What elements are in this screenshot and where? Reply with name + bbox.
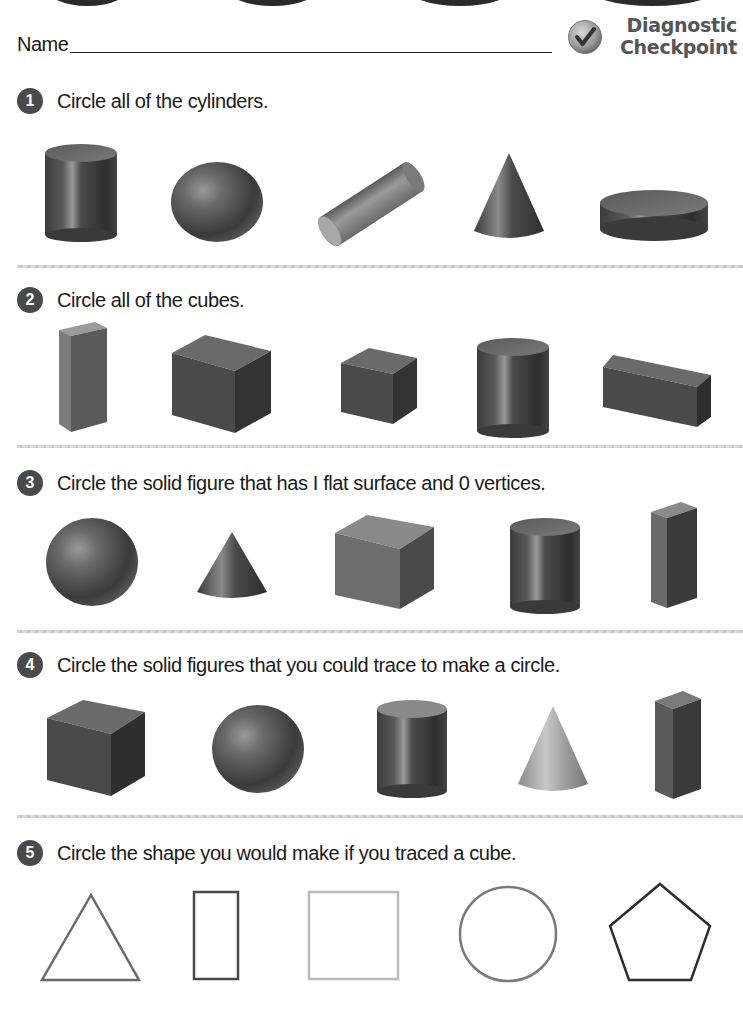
question-3-header: 3 Circle the solid figure that has I fla… (17, 470, 545, 496)
question-number-badge: 1 (17, 88, 43, 114)
top-tab-shape (45, 0, 130, 6)
question-1-header: 1 Circle all of the cylinders. (17, 88, 268, 114)
cone-figure[interactable] (516, 706, 590, 796)
question-text: Circle the shape you would make if you t… (57, 842, 516, 865)
cylinder-figure[interactable] (376, 699, 448, 799)
top-tab-shape (225, 0, 320, 6)
top-tab-shape (585, 0, 720, 6)
cube-figure[interactable] (172, 335, 272, 435)
checkmark-circle-icon (567, 19, 603, 55)
triangle-shape[interactable] (40, 923, 140, 981)
rectangle-shape[interactable] (192, 890, 240, 982)
tall-rectangular-prism-figure[interactable] (655, 691, 703, 801)
square-shape[interactable] (307, 890, 401, 982)
question-number-badge: 5 (17, 840, 43, 866)
name-field-row: Name (17, 33, 552, 56)
short-cylinder-figure[interactable] (599, 189, 709, 245)
diagnostic-checkpoint-title: Diagnostic Checkpoint (620, 14, 737, 58)
sphere-figure[interactable] (45, 517, 139, 607)
tall-rectangular-prism-figure[interactable] (59, 322, 109, 434)
question-5-header: 5 Circle the shape you would make if you… (17, 840, 516, 866)
name-write-line[interactable] (70, 52, 552, 53)
wide-rectangular-prism-figure[interactable] (603, 355, 713, 427)
question-2-header: 2 Circle all of the cubes. (17, 287, 244, 313)
sphere-figure[interactable] (211, 704, 305, 794)
cube-figure[interactable] (47, 700, 147, 798)
cone-figure[interactable] (196, 532, 268, 600)
question-text: Circle the solid figures that you could … (57, 654, 560, 677)
cylinder-figure[interactable] (476, 337, 550, 439)
top-tab-shape (405, 0, 515, 6)
tilted-cylinder-figure[interactable] (310, 160, 430, 250)
question-text: Circle all of the cylinders. (57, 90, 268, 113)
small-cube-figure[interactable] (341, 348, 419, 426)
question-text: Circle all of the cubes. (57, 289, 244, 312)
cone-figure[interactable] (472, 151, 546, 241)
cylinder-figure[interactable] (44, 143, 118, 243)
title-line-1: Diagnostic (620, 14, 737, 36)
section-divider (17, 445, 743, 448)
tall-rectangular-prism-figure[interactable] (651, 502, 699, 610)
sphere-figure[interactable] (170, 161, 264, 243)
top-decorative-tabs (0, 0, 743, 6)
name-label: Name (17, 33, 68, 56)
section-divider (17, 815, 743, 818)
question-number-badge: 3 (17, 470, 43, 496)
title-line-2: Checkpoint (620, 36, 737, 58)
cube-figure[interactable] (335, 515, 435, 611)
pentagon-shape[interactable] (608, 882, 712, 982)
cylinder-figure[interactable] (509, 517, 581, 615)
question-number-badge: 2 (17, 287, 43, 313)
section-divider (17, 630, 743, 633)
question-4-header: 4 Circle the solid figures that you coul… (17, 652, 560, 678)
question-number-badge: 4 (17, 652, 43, 678)
circle-shape[interactable] (458, 884, 558, 984)
question-text: Circle the solid figure that has I flat … (57, 472, 545, 495)
section-divider (17, 265, 743, 268)
